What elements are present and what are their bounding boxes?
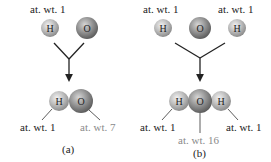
combine-arrow <box>54 43 84 78</box>
reactant-h1-label: at. wt. 1 <box>143 3 178 15</box>
reactant-h2-label: at. wt. 1 <box>218 3 253 15</box>
combine-arrow <box>175 43 225 78</box>
reactant-hydrogen-atom-1: H <box>154 19 172 37</box>
product-molecule: H O <box>49 89 93 113</box>
atom-symbol: O <box>196 23 203 34</box>
panel-b: at. wt. 1 at. wt. 1 H O H H O H <box>140 3 261 160</box>
caption-a: (a) <box>62 143 75 156</box>
atom-symbol: H <box>217 96 224 107</box>
atom-symbol: H <box>55 96 62 107</box>
atom-symbol: H <box>175 96 182 107</box>
atom-symbol: O <box>83 23 90 34</box>
product-h-label: at. wt. 1 <box>20 121 55 133</box>
reactant-oxygen-atom: O <box>189 17 211 39</box>
atom-symbol: O <box>77 96 84 107</box>
product-h1-label: at. wt. 1 <box>140 121 175 133</box>
caption-b: (b) <box>193 147 206 160</box>
reactant-hydrogen-atom: H <box>41 19 59 37</box>
product-molecule: H O H <box>169 89 231 113</box>
atom-symbol: H <box>46 23 53 34</box>
reactant-h-label: at. wt. 1 <box>30 3 65 15</box>
reactant-oxygen-atom: O <box>76 17 98 39</box>
panel-a: at. wt. 1 H O H O at. wt. 1 at. wt. 7 (a… <box>20 3 116 156</box>
atom-symbol: H <box>159 23 166 34</box>
product-h2-label: at. wt. 1 <box>226 121 261 133</box>
product-o-label: at. wt. 7 <box>80 121 116 133</box>
diagram-root: at. wt. 1 H O H O at. wt. 1 at. wt. 7 (a… <box>0 0 271 162</box>
reactant-hydrogen-atom-2: H <box>228 19 246 37</box>
atom-symbol: H <box>233 23 240 34</box>
atom-symbol: O <box>196 96 203 107</box>
product-o-label: at. wt. 16 <box>178 134 219 146</box>
